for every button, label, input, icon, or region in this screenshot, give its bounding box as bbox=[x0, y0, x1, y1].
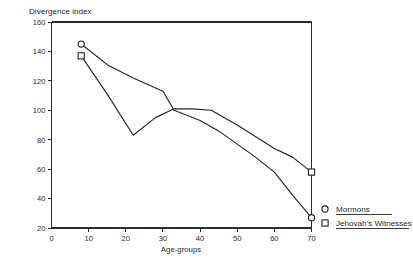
y-tick-label: 20 bbox=[37, 224, 45, 233]
y-tick-label: 100 bbox=[33, 106, 46, 115]
y-tick-label: 80 bbox=[37, 136, 45, 145]
y-tick-label: 60 bbox=[37, 165, 45, 174]
x-tick-label: 0 bbox=[49, 234, 53, 243]
divergence-index-chart: 20406080100120140160 010203040506070 Div… bbox=[0, 0, 413, 263]
chart-canvas: 20406080100120140160 010203040506070 Div… bbox=[0, 0, 413, 263]
data-point-marker-circle bbox=[308, 215, 314, 221]
legend-label-jehovahs-witnesses: Jehovah's Witnesses bbox=[336, 219, 412, 228]
legend-circle-icon bbox=[322, 206, 328, 212]
y-axis-ticks: 20406080100120140160 bbox=[33, 18, 52, 233]
plot-frame bbox=[52, 22, 312, 228]
y-tick-label: 120 bbox=[33, 77, 46, 86]
legend-label-mormons: Mormons bbox=[336, 205, 370, 214]
x-tick-label: 20 bbox=[122, 234, 130, 243]
x-tick-label: 60 bbox=[270, 234, 278, 243]
x-axis-title: Age-groups bbox=[161, 245, 201, 254]
data-point-marker-square bbox=[308, 169, 314, 175]
series-line-mormons bbox=[81, 44, 311, 218]
x-tick-label: 10 bbox=[84, 234, 92, 243]
legend-square-icon bbox=[322, 220, 328, 226]
y-tick-label: 140 bbox=[33, 47, 46, 56]
x-tick-label: 50 bbox=[233, 234, 241, 243]
chart-title: Divergence index bbox=[29, 7, 92, 16]
series-line-jehovah-s-witnesses bbox=[81, 56, 311, 172]
legend: Mormons Jehovah's Witnesses bbox=[322, 205, 412, 229]
x-tick-label: 40 bbox=[196, 234, 204, 243]
x-axis-ticks: 010203040506070 bbox=[49, 228, 315, 243]
x-tick-label: 30 bbox=[159, 234, 167, 243]
x-tick-label: 70 bbox=[307, 234, 315, 243]
data-point-marker-square bbox=[78, 53, 84, 59]
y-tick-label: 40 bbox=[37, 194, 45, 203]
series-layer bbox=[78, 41, 314, 221]
y-tick-label: 160 bbox=[33, 18, 46, 27]
data-point-marker-circle bbox=[78, 41, 84, 47]
